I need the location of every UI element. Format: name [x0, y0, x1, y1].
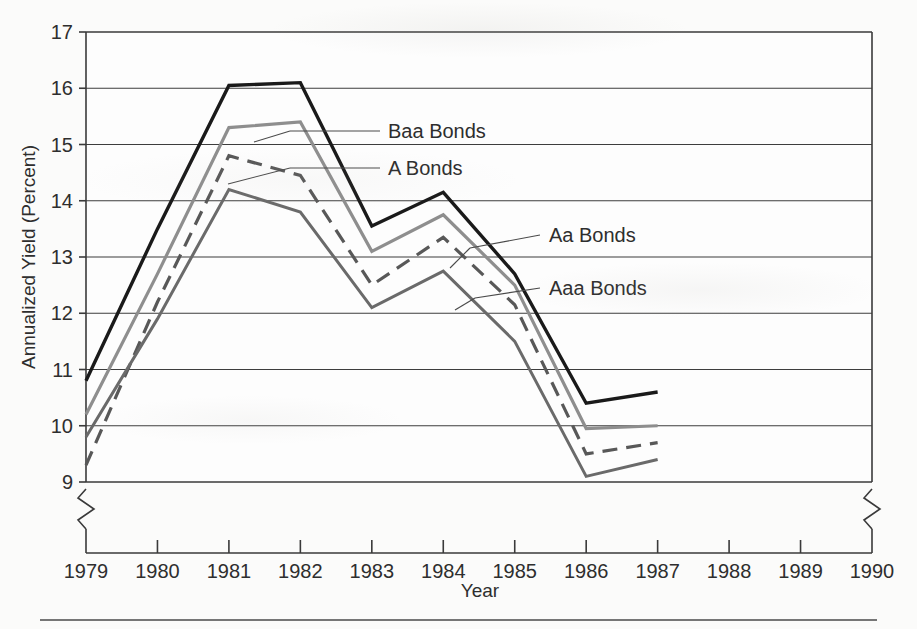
series-annotation-label: Aaa Bonds [549, 277, 647, 299]
y-axis-break-icon [78, 489, 94, 529]
series-annotation-label: A Bonds [388, 157, 463, 179]
y-tick-label-group: 91011121314151617 [51, 21, 73, 493]
y-tick-label: 15 [51, 134, 73, 156]
y-tick-label: 17 [51, 21, 73, 43]
y-tick-group [79, 32, 86, 482]
y-tick-label: 14 [51, 190, 73, 212]
x-tick-label: 1989 [778, 560, 823, 582]
x-tick-label: 1982 [278, 560, 323, 582]
x-tick-label: 1988 [707, 560, 752, 582]
x-tick-label: 1980 [135, 560, 180, 582]
figure-container: 1979198019811982198319841985198619871988… [0, 0, 917, 629]
y-axis-title: Annualized Yield (Percent) [18, 145, 39, 369]
x-tick-group [157, 540, 800, 553]
x-axis-title: Year [461, 580, 500, 601]
y-tick-label: 9 [62, 471, 73, 493]
y-tick-label: 13 [51, 246, 73, 268]
x-tick-label: 1983 [350, 560, 395, 582]
y-tick-label: 12 [51, 302, 73, 324]
x-tick-label: 1985 [492, 560, 537, 582]
x-axis-right-break-icon [864, 489, 880, 529]
y-tick-label: 11 [52, 359, 73, 381]
series-annotation-label: Baa Bonds [388, 120, 486, 142]
y-tick-label: 16 [51, 77, 73, 99]
bond-yield-line-chart: 1979198019811982198319841985198619871988… [0, 0, 917, 629]
y-tick-label: 10 [51, 415, 73, 437]
x-tick-label: 1979 [64, 560, 109, 582]
x-tick-label: 1981 [207, 560, 252, 582]
series-annotation-label: Aa Bonds [549, 224, 636, 246]
x-tick-label: 1987 [635, 560, 680, 582]
x-tick-label-group: 1979198019811982198319841985198619871988… [64, 560, 895, 582]
x-tick-label: 1990 [850, 560, 895, 582]
x-tick-label: 1986 [564, 560, 609, 582]
x-tick-label: 1984 [421, 560, 466, 582]
